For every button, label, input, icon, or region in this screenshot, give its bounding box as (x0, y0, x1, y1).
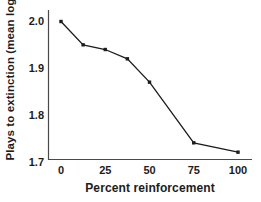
y-tick-label: 1.7 (29, 156, 44, 168)
x-tick-label: 100 (229, 164, 247, 176)
data-line (61, 21, 238, 152)
x-tick-label: 25 (99, 164, 111, 176)
y-axis-label: Plays to extinction (mean log) (4, 9, 19, 161)
y-tick-label: 1.8 (29, 109, 44, 121)
axes-spines (49, 10, 253, 160)
plot-area: 02550751002.01.91.81.7 (0, 0, 261, 202)
data-point-marker (81, 43, 84, 46)
data-point-marker (59, 20, 62, 23)
data-point-marker (148, 80, 151, 83)
x-tick-label: 50 (143, 164, 155, 176)
data-point-marker (104, 48, 107, 51)
data-point-marker (126, 57, 129, 60)
y-tick-label: 1.9 (29, 62, 44, 74)
x-axis-label: Percent reinforcement (48, 181, 252, 195)
y-tick-label: 2.0 (29, 15, 44, 27)
x-tick-label: 75 (188, 164, 200, 176)
line-chart: 02550751002.01.91.81.7 Plays to extincti… (0, 0, 261, 202)
data-point-marker (236, 150, 239, 153)
x-tick-label: 0 (58, 164, 64, 176)
data-point-marker (192, 141, 195, 144)
